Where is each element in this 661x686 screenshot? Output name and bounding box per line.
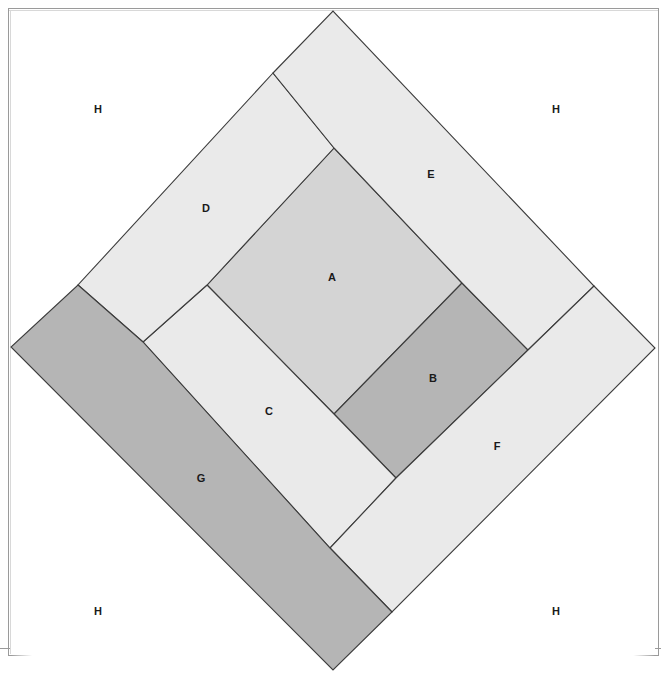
corner-label-h-bottom-right: H [552,605,560,617]
corner-label-h-bottom-left: H [94,605,102,617]
dissection-figure: HHHHABCDEFG [0,0,661,686]
corner-label-h-top-right: H [552,103,560,115]
region-label-g: G [197,472,206,484]
region-label-d: D [202,202,210,214]
region-label-e: E [427,168,434,180]
corner-label-h-top-left: H [94,103,102,115]
figure-page: HHHHABCDEFG [0,0,661,686]
region-label-a: A [328,271,336,283]
region-label-c: C [265,405,273,417]
region-label-f: F [494,440,501,452]
region-label-b: B [429,372,437,384]
